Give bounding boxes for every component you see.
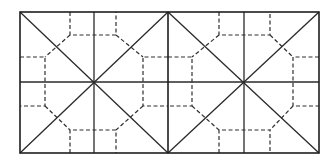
diagram-svg [0,0,336,162]
dashed-chamfer [45,35,70,57]
dashed-bottom-tab [70,130,116,153]
fold-diagram [0,0,336,162]
dashed-chamfer [116,106,143,130]
dashed-top-tab [70,12,116,35]
dashed-chamfer [116,35,143,57]
